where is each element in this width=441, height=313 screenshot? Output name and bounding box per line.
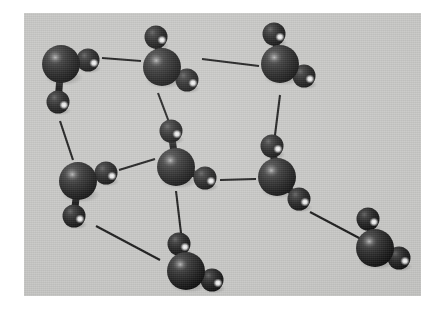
oxygen-atom bbox=[42, 45, 80, 83]
hydrogen-specular-highlight bbox=[188, 78, 198, 87]
hydrogen-specular-highlight bbox=[89, 58, 99, 67]
oxygen-specular-highlight bbox=[149, 54, 164, 67]
oxygen-specular-highlight bbox=[362, 235, 377, 248]
molecule-top-center bbox=[143, 26, 199, 92]
molecule-center bbox=[157, 120, 217, 190]
hydrogen-specular-highlight bbox=[157, 35, 167, 44]
bond-leftmiddle-center bbox=[119, 159, 155, 170]
oxygen-specular-highlight bbox=[264, 164, 279, 177]
molecule-top-left bbox=[42, 45, 100, 114]
hydrogen-specular-highlight bbox=[180, 242, 190, 251]
oxygen-atom bbox=[356, 229, 394, 267]
hydrogen-specular-highlight bbox=[213, 278, 223, 287]
hydrogen-bond-layer bbox=[60, 58, 361, 260]
molecule-network-svg bbox=[24, 13, 421, 296]
hydrogen-specular-highlight bbox=[400, 256, 410, 265]
hydrogen-specular-highlight bbox=[206, 176, 216, 185]
oxygen-specular-highlight bbox=[48, 51, 63, 64]
oxygen-atom bbox=[167, 252, 205, 290]
oxygen-atom bbox=[157, 148, 195, 186]
oxygen-atom bbox=[261, 45, 299, 83]
molecule-bottom-right bbox=[356, 208, 411, 270]
hydrogen-specular-highlight bbox=[107, 171, 117, 180]
hydrogen-specular-highlight bbox=[59, 100, 69, 109]
bond-leftmiddle-bottomcenter bbox=[96, 226, 160, 260]
molecular-diagram-panel bbox=[24, 13, 421, 296]
figure-root bbox=[0, 0, 441, 313]
oxygen-specular-highlight bbox=[65, 168, 80, 181]
hydrogen-specular-highlight bbox=[300, 197, 310, 206]
molecule-left-middle bbox=[59, 162, 118, 228]
molecule-top-right bbox=[261, 23, 316, 88]
hydrogen-specular-highlight bbox=[172, 129, 182, 138]
oxygen-atom bbox=[258, 158, 296, 196]
hydrogen-specular-highlight bbox=[273, 144, 283, 153]
oxygen-specular-highlight bbox=[163, 154, 178, 167]
bond-rightmiddle-bottomright bbox=[310, 212, 361, 239]
bond-topcenter-topright bbox=[202, 59, 259, 66]
bond-center-bottomcenter bbox=[176, 191, 181, 233]
oxygen-atom bbox=[59, 162, 97, 200]
bond-topleft-topcenter bbox=[102, 58, 141, 61]
molecule-right-middle bbox=[258, 135, 311, 211]
oxygen-atom bbox=[143, 48, 181, 86]
hydrogen-specular-highlight bbox=[305, 74, 315, 83]
bond-topleft-leftmiddle bbox=[60, 121, 73, 160]
oxygen-specular-highlight bbox=[173, 258, 188, 271]
oxygen-specular-highlight bbox=[267, 51, 282, 64]
molecule-bottom-center bbox=[167, 233, 224, 292]
hydrogen-specular-highlight bbox=[369, 217, 379, 226]
bond-center-rightmiddle bbox=[220, 179, 256, 180]
hydrogen-specular-highlight bbox=[75, 214, 85, 223]
hydrogen-specular-highlight bbox=[275, 32, 285, 41]
